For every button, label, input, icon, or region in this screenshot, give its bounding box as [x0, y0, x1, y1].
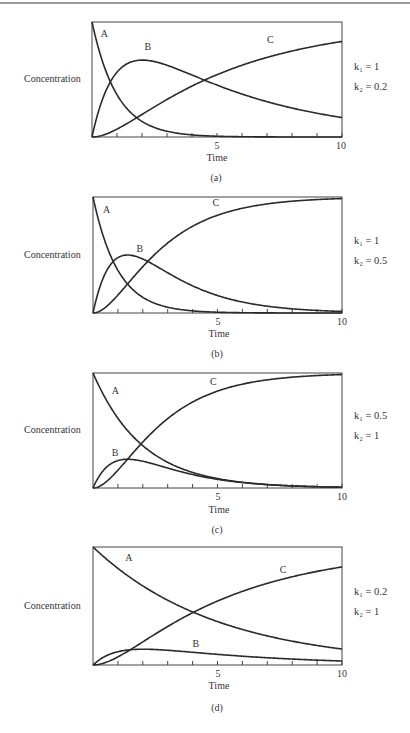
panel-caption: (a) [210, 172, 221, 183]
k2-label: k₂ = 1 [354, 606, 379, 617]
curve-label-c: C [267, 34, 274, 45]
curve-c [93, 567, 342, 665]
panel-caption: (c) [211, 524, 222, 535]
plot-frame [93, 373, 342, 488]
curve-label-b: B [193, 638, 200, 649]
x-axis-label: Time [209, 680, 230, 691]
y-axis-label: Concentration [24, 73, 81, 84]
x-axis-label: Time [207, 152, 228, 163]
x-tick-5: 5 [215, 140, 220, 151]
x-tick-5: 5 [216, 668, 221, 679]
curve-label-c: C [213, 197, 220, 208]
curve-label-c: C [210, 376, 217, 387]
panel-caption: (b) [211, 348, 223, 359]
plot-area: ABC [92, 22, 342, 137]
curve-label-b: B [112, 447, 119, 458]
k1-label: k₁ = 1 [354, 235, 379, 246]
x-tick-10: 10 [337, 491, 347, 502]
curve-label-a: A [112, 385, 120, 396]
curve-b [93, 255, 342, 313]
x-axis-label: Time [209, 328, 230, 339]
y-axis-label: Concentration [24, 249, 81, 260]
x-tick-10: 10 [337, 668, 347, 679]
plot-area: ABC [93, 547, 342, 665]
curve-c [92, 41, 342, 137]
panel-caption: (d) [211, 702, 223, 713]
plot-frame [93, 547, 342, 665]
k1-label: k₁ = 0.2 [354, 586, 387, 597]
plot-frame [92, 22, 342, 137]
plot-area: ABC [93, 197, 342, 313]
curve-label-a: A [103, 204, 111, 215]
top-rule [0, 2, 410, 4]
x-tick-10: 10 [336, 140, 346, 151]
k2-label: k₂ = 0.2 [354, 81, 387, 92]
plot-area: ABC [93, 373, 342, 488]
x-tick-10: 10 [337, 316, 347, 327]
k1-label: k₁ = 0.5 [354, 410, 387, 421]
curve-label-a: A [101, 28, 109, 39]
curve-label-a: A [125, 552, 133, 563]
x-axis-label: Time [209, 504, 230, 515]
k1-label: k₁ = 1 [354, 61, 379, 72]
curve-c [93, 375, 342, 488]
curve-label-b: B [145, 41, 152, 52]
curve-label-c: C [280, 564, 287, 575]
y-axis-label: Concentration [24, 600, 81, 611]
k2-label: k₂ = 0.5 [354, 255, 387, 266]
curve-label-b: B [137, 243, 144, 254]
y-axis-label: Concentration [24, 424, 81, 435]
k2-label: k₂ = 1 [354, 430, 379, 441]
curve-a [93, 373, 342, 487]
curve-b [93, 459, 342, 488]
x-tick-5: 5 [216, 316, 221, 327]
x-tick-5: 5 [216, 491, 221, 502]
curve-b [92, 60, 342, 137]
curve-a [92, 22, 342, 137]
